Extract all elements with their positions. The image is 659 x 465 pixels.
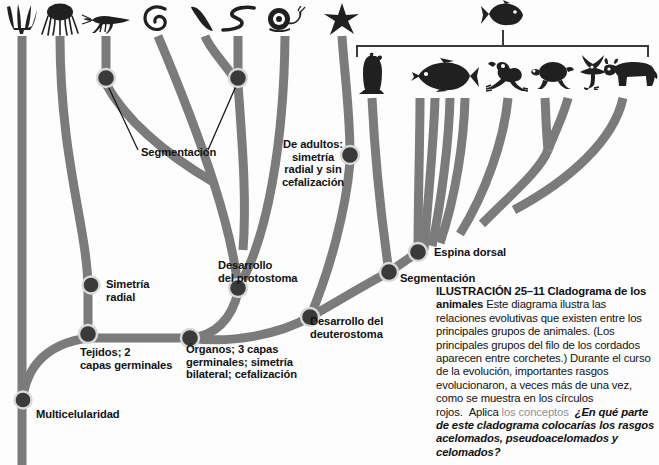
frog-icon [484,58,532,92]
caption-apply-prefix: Aplica [469,406,499,418]
label-espina-dorsal: Espina dorsal [434,246,506,259]
roundworm-icon [218,4,258,34]
bracket-fish-icon [479,0,527,28]
node-multicellularity [15,392,32,409]
tunicate-icon [358,52,386,94]
fish-icon [406,58,480,92]
label-protostoma: Desarrollo del protostoma [218,259,297,284]
cow-icon [602,56,658,90]
label-simetria-radial: Simetría radial [106,278,149,303]
label-tejidos: Tejidos; 2 capas germinales [80,346,172,371]
jellyfish-icon [40,2,80,36]
label-segmentacion-der: Segmentación [400,272,475,285]
cladogram-figure: Multicelularidad Tejidos; 2 capas germin… [0,0,659,465]
label-multicelularidad: Multicelularidad [36,408,120,421]
caption-apply-label: los conceptos [502,406,569,418]
branch-bird [548,98,568,150]
branch-tunicate [372,98,389,272]
annelid-icon [188,5,222,33]
sponge-icon [5,2,39,34]
label-adultos-simetria: De adultos: simetría radial y sin cefali… [277,138,349,188]
grasshopper-icon [80,8,132,34]
caption-body: Este diagrama ilustra las relaciones evo… [436,298,651,417]
label-deuterostoma: Desarrollo del deuterostoma [310,315,383,340]
branch-organs-to-deuterostome [190,317,310,340]
node-backbone [409,243,427,261]
snail-icon [264,6,306,32]
taxa-icons [0,0,659,40]
node-segmentation-arthropod [97,69,115,87]
caption-figure-number: ILUSTRACIÓN 25–11 [436,285,545,297]
branch-annelid-clade [238,84,244,250]
label-segmentacion-izq: Segmentación [141,146,216,159]
turtle-icon [530,58,576,90]
figure-caption: ILUSTRACIÓN 25–11 Cladograma de los anim… [436,285,658,459]
branch-jellyfish [60,36,88,290]
node-radial-symmetry [83,277,100,294]
branch-fish-1 [418,98,420,252]
flatworm-icon [141,4,175,34]
node-segmentation-annelid [229,69,247,87]
label-organos: Órganos; 3 capas germinales; simetría bi… [186,343,297,381]
starfish-icon [323,2,361,38]
branch-cow [514,98,623,210]
node-segmentation-chordate [380,263,398,281]
leader-segmentation-right [208,86,236,150]
node-tissues [79,325,97,343]
